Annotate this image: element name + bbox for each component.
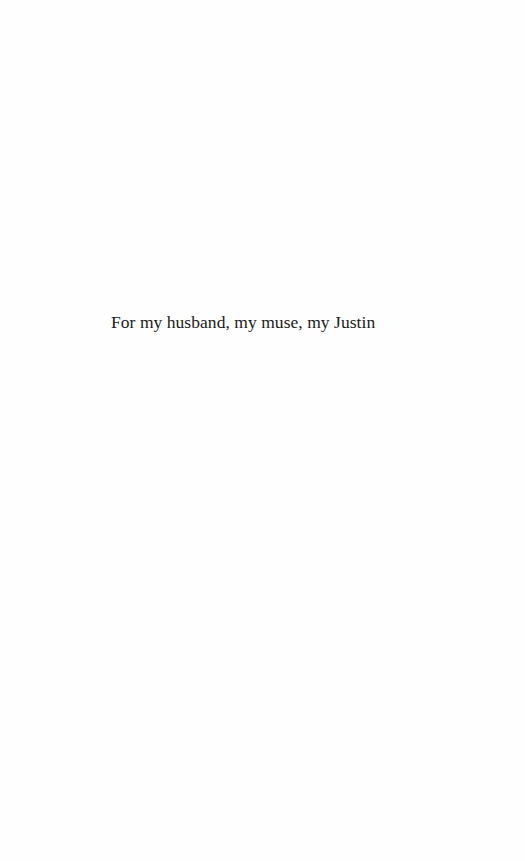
dedication-text: For my husband, my muse, my Justin — [111, 311, 375, 333]
book-page: For my husband, my muse, my Justin — [0, 0, 525, 861]
